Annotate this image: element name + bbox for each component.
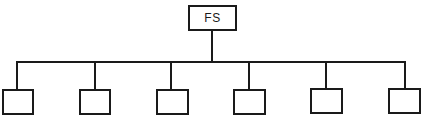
child-node-2 — [79, 89, 111, 115]
child-node-4 — [233, 89, 266, 115]
root-label: FS — [204, 11, 220, 25]
hierarchy-diagram: FS — [0, 0, 423, 125]
child-node-1 — [2, 89, 34, 115]
child-node-3 — [156, 89, 189, 115]
child-node-5 — [310, 88, 343, 114]
child-node-6 — [388, 88, 421, 114]
root-node-fs: FS — [188, 5, 237, 31]
